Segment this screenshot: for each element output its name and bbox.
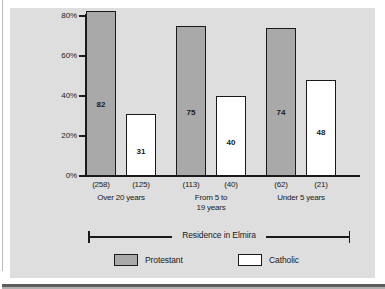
y-tick-label-60: 60% — [37, 51, 77, 60]
plot-area: 80% 60% 40% 20% 0% 82 31 (258) (125) Ove… — [10, 8, 375, 278]
chart-panel: 80% 60% 40% 20% 0% 82 31 (258) (125) Ove… — [10, 8, 375, 278]
figure-root: 80% 60% 40% 20% 0% 82 31 (258) (125) Ove… — [0, 0, 385, 289]
y-tick-label-80: 80% — [37, 11, 77, 20]
legend-label-protestant: Protestant — [145, 255, 183, 265]
page-left-rule — [2, 0, 3, 271]
bar-protestant-over-20-years[interactable] — [86, 11, 116, 176]
bar-value-catholic-from-5-to-19-years: 40 — [216, 138, 246, 147]
group-label-from-5-to-19-years-line2: 19 years — [162, 203, 260, 213]
legend-item-protestant[interactable]: Protestant — [114, 254, 183, 266]
residence-bracket: Residence in Elmira — [88, 230, 350, 244]
y-tick-label-40: 40% — [37, 91, 77, 100]
group-label-from-5-to-19-years-line1: From 5 to — [162, 193, 260, 203]
count-label-catholic-over-20-years: (125) — [117, 180, 165, 189]
group-label-from-5-to-19-years: From 5 to 19 years — [162, 193, 260, 213]
group-label-under-5-years-line1: Under 5 years — [252, 193, 350, 203]
chart-legend: Protestant Catholic — [10, 254, 375, 270]
group-label-over-20-years: Over 20 years — [72, 193, 170, 203]
bar-value-catholic-under-5-years: 48 — [306, 128, 336, 137]
bar-value-protestant-from-5-to-19-years: 75 — [176, 108, 206, 117]
legend-swatch-protestant-icon — [114, 254, 138, 266]
bracket-label: Residence in Elmira — [88, 230, 350, 240]
bar-protestant-from-5-to-19-years[interactable] — [176, 26, 206, 176]
group-label-over-20-years-line1: Over 20 years — [72, 193, 170, 203]
bar-protestant-under-5-years[interactable] — [266, 28, 296, 176]
count-label-catholic-from-5-to-19-years: (40) — [207, 180, 255, 189]
bar-value-catholic-over-20-years: 31 — [126, 147, 156, 156]
legend-item-catholic[interactable]: Catholic — [238, 254, 299, 266]
bar-catholic-from-5-to-19-years[interactable] — [216, 96, 246, 176]
legend-swatch-catholic-icon — [238, 254, 262, 266]
legend-label-catholic: Catholic — [269, 255, 299, 265]
count-label-catholic-under-5-years: (21) — [297, 180, 345, 189]
y-tick-label-20: 20% — [37, 131, 77, 140]
bar-value-protestant-over-20-years: 82 — [86, 100, 116, 109]
y-tick-label-0: 0% — [37, 171, 77, 180]
group-label-under-5-years: Under 5 years — [252, 193, 350, 203]
bar-value-protestant-under-5-years: 74 — [266, 108, 296, 117]
bar-catholic-over-20-years[interactable] — [126, 114, 156, 176]
